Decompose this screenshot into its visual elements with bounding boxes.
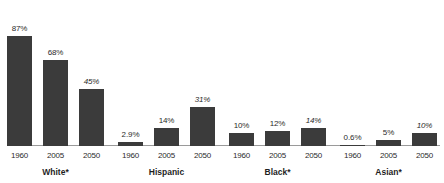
bars-row: 2.9%14%31%	[111, 0, 222, 146]
bar-value-label: 31%	[195, 95, 211, 105]
bar[interactable]	[190, 107, 215, 146]
bar-chart: 87%68%45%196020052050White*2.9%14%31%196…	[0, 0, 444, 183]
bar-group-white: 87%68%45%196020052050White*	[0, 0, 111, 183]
bar-value-label: 2.9%	[122, 130, 140, 140]
bar[interactable]	[265, 131, 290, 146]
bars-row: 0.6%5%10%	[333, 0, 444, 146]
year-tick-row: 196020052050	[0, 151, 111, 161]
bars-row: 87%68%45%	[0, 0, 111, 146]
bar-slot[interactable]: 31%	[190, 0, 215, 146]
bar-value-label: 14%	[306, 116, 322, 126]
year-tick-row: 196020052050	[111, 151, 222, 161]
year-tick-label: 2005	[43, 151, 68, 161]
year-tick-label: 2005	[154, 151, 179, 161]
year-tick-label: 1960	[7, 151, 32, 161]
year-tick-label: 2005	[376, 151, 401, 161]
bar-group-container: 87%68%45%196020052050White*2.9%14%31%196…	[0, 0, 444, 183]
bar-group-black: 10%12%14%196020052050Black*	[222, 0, 333, 183]
year-tick-label: 1960	[340, 151, 365, 161]
bar-value-label: 0.6%	[344, 133, 362, 143]
bar-value-label: 5%	[383, 128, 394, 138]
bar[interactable]	[340, 145, 365, 147]
year-tick-row: 196020052050	[222, 151, 333, 161]
bar-slot[interactable]: 68%	[43, 0, 68, 146]
bar-slot[interactable]: 10%	[412, 0, 437, 146]
bars-row: 10%12%14%	[222, 0, 333, 146]
bar[interactable]	[229, 133, 254, 146]
bar-slot[interactable]: 2.9%	[118, 0, 143, 146]
bar-slot[interactable]: 45%	[79, 0, 104, 146]
group-axis-label: Black*	[222, 167, 333, 178]
bar-value-label: 10%	[234, 121, 250, 131]
bar[interactable]	[43, 60, 68, 146]
year-tick-label: 2050	[79, 151, 104, 161]
bar-slot[interactable]: 12%	[265, 0, 290, 146]
year-tick-label: 2050	[412, 151, 437, 161]
bar-slot[interactable]: 10%	[229, 0, 254, 146]
group-axis-label: Hispanic	[111, 167, 222, 178]
bar-slot[interactable]: 87%	[7, 0, 32, 146]
group-axis-label: Asian*	[333, 167, 444, 178]
year-tick-label: 2050	[190, 151, 215, 161]
bar[interactable]	[301, 128, 326, 146]
bar[interactable]	[7, 36, 32, 146]
year-tick-label: 1960	[118, 151, 143, 161]
bar-value-label: 45%	[84, 77, 100, 87]
bar[interactable]	[79, 89, 104, 146]
bar-value-label: 12%	[270, 119, 286, 129]
bar[interactable]	[118, 142, 143, 146]
bar-slot[interactable]: 5%	[376, 0, 401, 146]
bar-value-label: 87%	[12, 24, 28, 34]
bar-value-label: 10%	[417, 121, 433, 131]
year-tick-label: 2050	[301, 151, 326, 161]
year-tick-label: 2005	[265, 151, 290, 161]
group-axis-label: White*	[0, 167, 111, 178]
bar[interactable]	[376, 140, 401, 146]
bar-group-asian: 0.6%5%10%196020052050Asian*	[333, 0, 444, 183]
bar-group-hispanic: 2.9%14%31%196020052050Hispanic	[111, 0, 222, 183]
year-tick-row: 196020052050	[333, 151, 444, 161]
bar[interactable]	[412, 133, 437, 146]
bar-value-label: 68%	[48, 48, 64, 58]
bar-value-label: 14%	[159, 116, 175, 126]
bar-slot[interactable]: 14%	[154, 0, 179, 146]
bar-slot[interactable]: 0.6%	[340, 0, 365, 146]
bar-slot[interactable]: 14%	[301, 0, 326, 146]
year-tick-label: 1960	[229, 151, 254, 161]
bar[interactable]	[154, 128, 179, 146]
